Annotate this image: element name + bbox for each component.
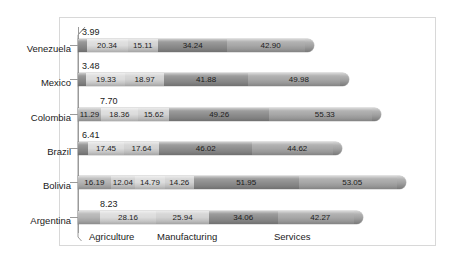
bar-segment-value: 46.02 xyxy=(196,143,216,152)
bar-segment[interactable]: 19.33 xyxy=(86,73,125,86)
axis-tick xyxy=(70,182,78,183)
bar-row: Brazil6.415.1717.4517.6446.0244.62 xyxy=(0,130,462,164)
bar-segment-value: 15.62 xyxy=(144,109,164,118)
axis-tick xyxy=(70,45,78,46)
bar-end-cap xyxy=(372,108,381,121)
bar-segment-value: 20.34 xyxy=(97,41,117,50)
stacked-bar[interactable]: 4.1819.3318.9741.8849.98 xyxy=(78,73,349,86)
bar-top-value-label: 3.48 xyxy=(82,61,100,71)
bar-segment-value: 14.79 xyxy=(140,178,160,187)
bar-segment-value: 51.95 xyxy=(236,178,256,187)
bar-segment-value: 41.88 xyxy=(196,75,216,84)
stacked-bar[interactable]: 4.2120.3415.1134.2442.90 xyxy=(78,39,314,52)
bar-segment-value: 49.98 xyxy=(289,75,309,84)
bar-segment[interactable]: 53.05 xyxy=(299,176,406,189)
country-label-brazil: Brazil xyxy=(0,146,71,157)
bar-row: Bolivia16.1912.0414.7914.2651.9553.05 xyxy=(0,164,462,198)
bar-segment[interactable]: 18.36 xyxy=(101,108,138,121)
stacked-bar[interactable]: 11.2918.3615.6249.2655.33 xyxy=(78,108,381,121)
bar-segment-value: 34.24 xyxy=(183,41,203,50)
stacked-bar[interactable]: 5.1717.4517.6446.0244.62 xyxy=(78,142,342,155)
bar-segment[interactable]: 49.26 xyxy=(169,108,269,121)
axis-tick xyxy=(70,148,78,149)
bar-row: Mexico3.484.1819.3318.9741.8849.98 xyxy=(0,61,462,95)
bar-top-value-label: 7.70 xyxy=(100,96,118,106)
bar-segment[interactable]: 28.16 xyxy=(100,211,157,224)
bar-segment[interactable]: 42.90 xyxy=(227,39,314,52)
stacked-bar-chart: Venezuela3.994.2120.3415.1134.2442.90Mex… xyxy=(0,0,462,266)
bar-segment[interactable]: 41.88 xyxy=(164,73,249,86)
bar-row: Venezuela3.994.2120.3415.1134.2442.90 xyxy=(0,27,462,61)
bar-segment[interactable]: 11.29 xyxy=(78,108,101,121)
bar-segment[interactable]: 15.11 xyxy=(128,39,159,52)
stacked-bar[interactable]: 16.1912.0414.7914.2651.9553.05 xyxy=(78,176,406,189)
bar-segment-value: 18.36 xyxy=(109,109,129,118)
bar-segment-value: 49.26 xyxy=(209,109,229,118)
bar-segment[interactable]: 51.95 xyxy=(194,176,299,189)
bar-segment[interactable]: 34.06 xyxy=(209,211,278,224)
axis-tick xyxy=(70,79,78,80)
bar-segment-value: 44.62 xyxy=(287,143,307,152)
category-caption-manufacturing: Manufacturing xyxy=(157,231,217,242)
axis-tick xyxy=(70,114,78,115)
bar-rows: Venezuela3.994.2120.3415.1134.2442.90Mex… xyxy=(0,0,462,266)
bar-segment-value: 12.04 xyxy=(113,178,133,187)
bar-segment[interactable]: 42.27 xyxy=(278,211,363,224)
bar-segment-value: 14.26 xyxy=(169,178,189,187)
bar-segment[interactable]: 49.98 xyxy=(248,73,349,86)
bar-top-value-label: 8.23 xyxy=(100,199,118,209)
bar-segment[interactable]: 4.21 xyxy=(78,39,87,52)
bar-segment-value: 19.33 xyxy=(96,75,116,84)
bar-segment[interactable]: 20.34 xyxy=(87,39,128,52)
bar-segment-value: 15.11 xyxy=(133,41,152,50)
bar-segment-value: 55.33 xyxy=(315,109,335,118)
bar-segment[interactable]: 5.17 xyxy=(78,142,88,155)
bar-segment-value: 28.16 xyxy=(118,212,138,221)
bar-segment-value: 17.64 xyxy=(131,143,151,152)
bar-segment-value: 11.29 xyxy=(80,109,99,118)
bar-segment-value: 18.97 xyxy=(135,75,155,84)
axis-tick xyxy=(70,217,78,218)
bar-segment[interactable]: 14.79 xyxy=(135,176,165,189)
country-label-argentina: Argentina xyxy=(0,215,71,226)
bar-segment-value: 42.90 xyxy=(261,41,281,50)
bar-segment[interactable]: 12.04 xyxy=(111,176,135,189)
category-caption-services: Services xyxy=(274,231,310,242)
bar-segment[interactable]: 25.94 xyxy=(156,211,208,224)
bar-top-value-label: 6.41 xyxy=(82,130,100,140)
bar-segment-value: 16.19 xyxy=(84,178,104,187)
bar-row: Colombia7.7011.2918.3615.6249.2655.33 xyxy=(0,96,462,130)
bar-segment[interactable]: 4.18 xyxy=(78,73,86,86)
bar-segment[interactable]: 16.19 xyxy=(78,176,111,189)
bar-segment[interactable]: 17.45 xyxy=(88,142,123,155)
bar-segment[interactable]: 15.62 xyxy=(138,108,170,121)
bar-segment[interactable]: 34.24 xyxy=(158,39,227,52)
bar-segment[interactable]: 14.26 xyxy=(165,176,194,189)
country-label-mexico: Mexico xyxy=(0,77,71,88)
bar-segment[interactable]: 17.64 xyxy=(124,142,160,155)
country-label-bolivia: Bolivia xyxy=(0,180,71,191)
stacked-bar[interactable]: 10.6828.1625.9434.0642.27 xyxy=(78,211,363,224)
category-caption-agriculture: Agriculture xyxy=(89,231,134,242)
bar-segment[interactable]: 10.68 xyxy=(78,211,100,224)
bar-segment[interactable]: 55.33 xyxy=(269,108,381,121)
bar-segment-value: 53.05 xyxy=(342,178,362,187)
country-label-colombia: Colombia xyxy=(0,112,71,123)
bar-segment[interactable]: 44.62 xyxy=(252,142,342,155)
bar-top-value-label: 3.99 xyxy=(82,27,100,37)
bar-row: Argentina8.2310.6828.1625.9434.0642.27 xyxy=(0,199,462,233)
bar-segment-value: 34.06 xyxy=(233,212,253,221)
bar-segment[interactable]: 46.02 xyxy=(159,142,252,155)
bar-segment[interactable]: 18.97 xyxy=(125,73,163,86)
country-label-venezuela: Venezuela xyxy=(0,43,71,54)
bar-segment-value: 25.94 xyxy=(173,212,193,221)
bar-segment-value: 17.45 xyxy=(96,143,116,152)
bar-segment-value: 42.27 xyxy=(310,212,330,221)
